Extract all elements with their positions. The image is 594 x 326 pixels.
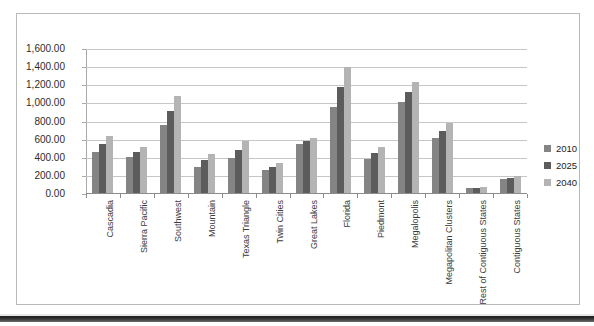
legend-item[interactable]: 2025: [544, 157, 577, 174]
x-axis-tick: [425, 194, 426, 198]
bar: [126, 157, 133, 193]
x-axis-category-label: Texas Triangle: [242, 200, 251, 258]
chart-page: 201020252040 0.00200.00400.00600.00800.0…: [0, 0, 594, 326]
bar: [344, 67, 351, 193]
bar: [398, 102, 405, 193]
bar-group: [425, 49, 459, 193]
x-axis-tick: [86, 194, 87, 198]
x-axis-tick: [120, 194, 121, 198]
bar: [262, 170, 269, 193]
bar: [405, 92, 412, 194]
bar: [371, 153, 378, 193]
y-axis-label: 200.00: [17, 171, 65, 181]
bar: [480, 187, 487, 193]
x-axis-category-label: Rest of Contiguous States: [479, 200, 488, 305]
bar: [296, 144, 303, 193]
x-axis-category-label: Florida: [343, 200, 352, 228]
bar: [446, 123, 453, 193]
legend-swatch-icon: [544, 162, 551, 169]
bar: [514, 176, 521, 193]
x-axis-category-label: Sierra Pacific: [140, 200, 149, 253]
x-axis-category-label: Mountain: [208, 200, 217, 237]
x-axis-tick: [222, 194, 223, 198]
legend-item[interactable]: 2010: [544, 140, 577, 157]
x-axis-category-label: Piedmont: [377, 200, 386, 238]
bar: [507, 178, 514, 193]
bar: [364, 159, 371, 193]
bar: [208, 154, 215, 193]
chart-legend: 201020252040: [544, 140, 577, 191]
x-axis-category-label: Twin Cities: [276, 200, 285, 244]
plot-area: [86, 49, 527, 194]
bar: [432, 138, 439, 193]
x-axis-category-label: Megalopolis: [411, 200, 420, 248]
bar-group: [188, 49, 222, 193]
bar: [500, 179, 507, 193]
bar: [303, 141, 310, 193]
x-axis-tick: [527, 194, 528, 198]
x-axis-category-label: Great Lakes: [310, 200, 319, 249]
legend-item-label: 2010: [556, 144, 577, 154]
bar-group: [290, 49, 324, 193]
x-axis-line: [86, 193, 527, 194]
y-axis-label: 400.00: [17, 153, 65, 163]
bar: [133, 152, 140, 193]
bar: [160, 125, 167, 193]
bar: [106, 136, 113, 193]
bar: [310, 138, 317, 193]
bar: [167, 111, 174, 193]
legend-item-label: 2040: [556, 178, 577, 188]
x-axis-tick: [493, 194, 494, 198]
bar: [99, 144, 106, 193]
x-axis-tick: [391, 194, 392, 198]
bar: [378, 147, 385, 193]
x-axis-tick: [357, 194, 358, 198]
bar-group: [86, 49, 120, 193]
bar: [473, 188, 480, 193]
bar: [466, 188, 473, 193]
bar: [276, 163, 283, 193]
bar: [201, 160, 208, 193]
bar-group: [391, 49, 425, 193]
bar-group: [256, 49, 290, 193]
y-axis-label: 800.00: [17, 117, 65, 127]
bar: [330, 107, 337, 193]
bar: [337, 87, 344, 193]
bar-group: [222, 49, 256, 193]
bar-group: [154, 49, 188, 193]
bar: [174, 96, 181, 193]
y-axis-label: 0.00: [17, 189, 65, 199]
legend-item[interactable]: 2040: [544, 174, 577, 191]
legend-item-label: 2025: [556, 161, 577, 171]
bar-group: [323, 49, 357, 193]
legend-swatch-icon: [544, 145, 551, 152]
x-axis-tick: [188, 194, 189, 198]
bar: [269, 167, 276, 193]
bar: [92, 152, 99, 193]
bar-group: [120, 49, 154, 193]
x-axis-category-label: Contiguous States: [513, 200, 522, 274]
x-axis-tick: [290, 194, 291, 198]
x-axis-category-label: Southwest: [174, 200, 183, 242]
y-axis-label: 1,400.00: [17, 62, 65, 72]
bar-group: [459, 49, 493, 193]
y-axis-label: 1,600.00: [17, 44, 65, 54]
bar: [194, 167, 201, 193]
y-axis-label: 1,000.00: [17, 98, 65, 108]
x-axis-category-label: Cascadia: [106, 200, 115, 238]
legend-swatch-icon: [544, 179, 551, 186]
bar-group: [357, 49, 391, 193]
bar: [439, 131, 446, 193]
bottom-dark-band: [0, 316, 594, 322]
x-axis-tick: [323, 194, 324, 198]
x-axis-category-label: Megapolitan Clusters: [445, 200, 454, 285]
bar-group: [493, 49, 527, 193]
y-axis-label: 600.00: [17, 135, 65, 145]
bar: [235, 150, 242, 193]
y-axis-label: 1,200.00: [17, 80, 65, 90]
chart-frame: 201020252040 0.00200.00400.00600.00800.0…: [16, 13, 580, 305]
bar: [412, 82, 419, 193]
bar: [228, 158, 235, 193]
bar: [242, 141, 249, 193]
x-axis-tick: [154, 194, 155, 198]
